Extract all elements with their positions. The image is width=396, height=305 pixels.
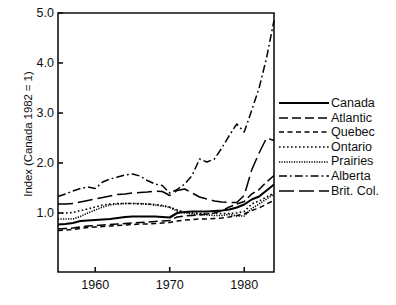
- x-tick-label: 1980: [230, 278, 258, 292]
- legend-item-label: Ontario: [330, 141, 372, 154]
- series-line-brit-col: [58, 138, 274, 204]
- legend-item-label: Quebec: [330, 126, 375, 139]
- legend-item-label: Prairies: [330, 155, 373, 168]
- series-line-alberta: [58, 21, 274, 197]
- x-tick-label: 1970: [156, 278, 184, 292]
- series-line-ontario: [58, 193, 274, 214]
- legend-item-label: Canada: [330, 97, 375, 110]
- x-tick-label: 1960: [81, 278, 109, 292]
- legend-line-sample: [278, 170, 330, 182]
- legend-item-brit-col[interactable]: Brit. Col.: [278, 184, 396, 199]
- legend-line-sample: [278, 126, 330, 138]
- legend-item-label: Alberta: [330, 170, 371, 183]
- legend-line-sample: [278, 141, 330, 153]
- legend-line-sample: [278, 156, 330, 168]
- series-line-canada: [58, 185, 274, 225]
- legend-item-label: Brit. Col.: [330, 185, 379, 198]
- legend-line-sample: [278, 112, 330, 124]
- legend-item-atlantic[interactable]: Atlantic: [278, 111, 396, 126]
- legend-line-sample: [278, 185, 330, 197]
- legend-line-sample: [278, 97, 330, 109]
- plot-frame: [58, 13, 274, 272]
- legend-item-canada[interactable]: Canada: [278, 96, 396, 111]
- chart-figure: Index (Canada 1982 = 1) 1.02.03.04.05.0 …: [0, 0, 396, 305]
- legend-item-label: Atlantic: [330, 112, 372, 125]
- chart-legend: CanadaAtlanticQuebecOntarioPrairiesAlber…: [278, 96, 396, 198]
- legend-item-alberta[interactable]: Alberta: [278, 169, 396, 184]
- legend-item-ontario[interactable]: Ontario: [278, 140, 396, 155]
- legend-item-prairies[interactable]: Prairies: [278, 154, 396, 169]
- legend-item-quebec[interactable]: Quebec: [278, 125, 396, 140]
